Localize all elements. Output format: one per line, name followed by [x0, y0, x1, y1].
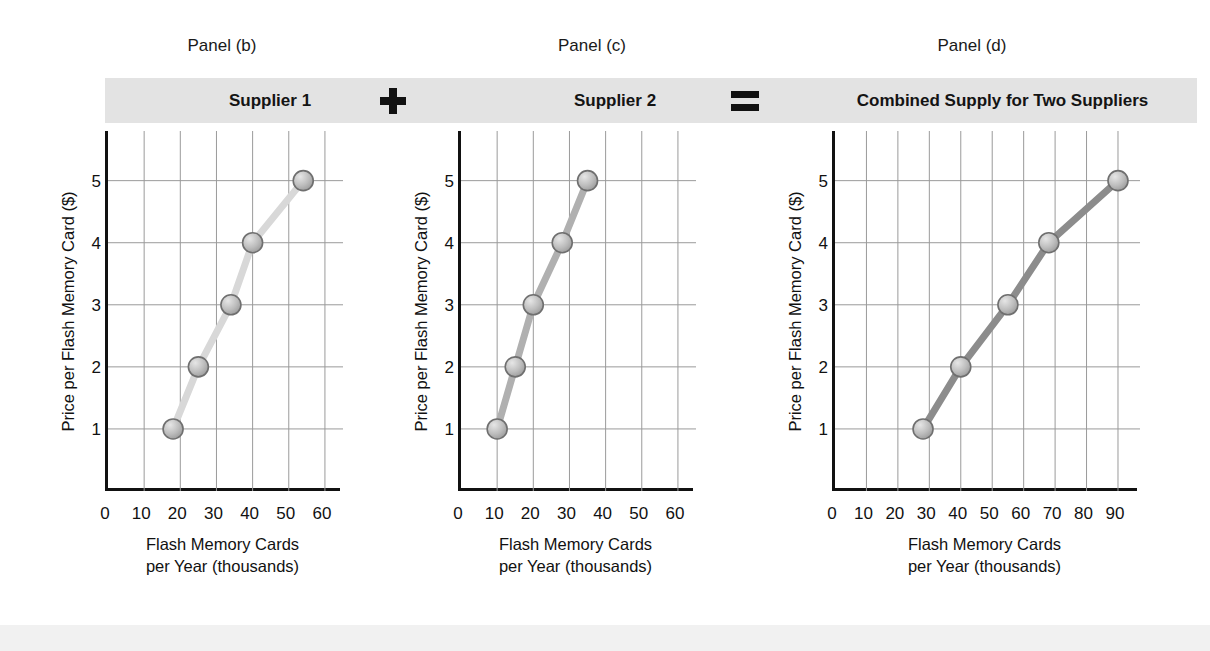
x-tick-label: 50: [980, 503, 999, 525]
y-tick-label: 4: [445, 234, 454, 251]
x-tick-label: 10: [485, 503, 504, 525]
y-tick-label: 2: [92, 358, 101, 375]
equals-icon: [731, 90, 759, 112]
x-tick-label: 60: [312, 503, 331, 525]
chart-svg: [461, 131, 696, 491]
y-axis-label-d: Price per Flash Memory Card ($): [782, 131, 808, 491]
y-axis-label-b: Price per Flash Memory Card ($): [55, 131, 81, 491]
data-point-marker: [1039, 233, 1059, 253]
y-tick-label: 3: [92, 296, 101, 313]
x-axis-ticks-c: 0102030405060: [458, 503, 693, 525]
x-tick-label: 80: [1074, 503, 1093, 525]
data-point-marker: [293, 171, 313, 191]
y-tick-label: 3: [819, 296, 828, 313]
plot-area-c: 12345: [458, 131, 693, 491]
x-tick-label: 50: [629, 503, 648, 525]
x-tick-label: 30: [917, 503, 936, 525]
x-tick-label: 40: [593, 503, 612, 525]
data-point-marker: [487, 419, 507, 439]
x-axis-caption-b: Flash Memory Cards per Year (thousands): [105, 533, 340, 578]
data-point-marker: [552, 233, 572, 253]
x-tick-label: 10: [132, 503, 151, 525]
x-tick-label: 20: [168, 503, 187, 525]
y-tick-label: 2: [819, 358, 828, 375]
band-title-combined: Combined Supply for Two Suppliers: [808, 78, 1197, 123]
data-point-marker: [951, 357, 971, 377]
x-tick-label: 20: [885, 503, 904, 525]
y-tick-label: 4: [92, 234, 101, 251]
y-tick-label: 5: [92, 172, 101, 189]
plot-area-b: 12345: [105, 131, 340, 491]
data-point-marker: [163, 419, 183, 439]
data-point-marker: [221, 295, 241, 315]
x-tick-label: 70: [1043, 503, 1062, 525]
x-tick-label: 0: [827, 503, 836, 525]
data-point-marker: [1108, 171, 1128, 191]
x-tick-label: 40: [240, 503, 259, 525]
y-axis-label-c: Price per Flash Memory Card ($): [408, 131, 434, 491]
x-tick-label: 0: [453, 503, 462, 525]
x-axis-ticks-b: 0102030405060: [105, 503, 340, 525]
y-tick-label: 5: [445, 172, 454, 189]
x-tick-label: 30: [204, 503, 223, 525]
data-point-marker: [505, 357, 525, 377]
panel-captions-row: Panel (b) Panel (c) Panel (d): [0, 36, 1210, 66]
header-band: Supplier 1 Supplier 2 Combined Supply fo…: [105, 78, 1197, 123]
panel-caption-c: Panel (c): [472, 36, 712, 56]
x-tick-label: 50: [276, 503, 295, 525]
y-tick-label: 1: [92, 420, 101, 437]
data-point-marker: [188, 357, 208, 377]
panel-caption-d: Panel (d): [852, 36, 1092, 56]
x-tick-label: 10: [854, 503, 873, 525]
bottom-strip: [0, 625, 1210, 651]
plus-operator: [353, 78, 433, 123]
x-tick-label: 60: [1011, 503, 1030, 525]
y-tick-label: 1: [819, 420, 828, 437]
x-tick-label: 60: [665, 503, 684, 525]
chart-svg: [108, 131, 343, 491]
x-tick-label: 40: [948, 503, 967, 525]
y-tick-label: 2: [445, 358, 454, 375]
plus-icon: [380, 88, 406, 114]
plot-area-d: 12345: [832, 131, 1137, 491]
x-axis-caption-c: Flash Memory Cards per Year (thousands): [458, 533, 693, 578]
y-tick-label: 1: [445, 420, 454, 437]
y-tick-label: 4: [819, 234, 828, 251]
data-point-marker: [998, 295, 1018, 315]
data-point-marker: [578, 171, 598, 191]
y-tick-label: 3: [445, 296, 454, 313]
x-tick-label: 90: [1106, 503, 1125, 525]
data-point-marker: [523, 295, 543, 315]
x-tick-label: 30: [557, 503, 576, 525]
x-axis-caption-d: Flash Memory Cards per Year (thousands): [832, 533, 1137, 578]
y-tick-label: 5: [819, 172, 828, 189]
chart-svg: [835, 131, 1140, 491]
data-point-marker: [243, 233, 263, 253]
x-tick-label: 20: [521, 503, 540, 525]
x-axis-ticks-d: 0102030405060708090: [832, 503, 1137, 525]
equals-operator: [705, 78, 785, 123]
data-point-marker: [913, 419, 933, 439]
panel-caption-b: Panel (b): [102, 36, 342, 56]
x-tick-label: 0: [100, 503, 109, 525]
